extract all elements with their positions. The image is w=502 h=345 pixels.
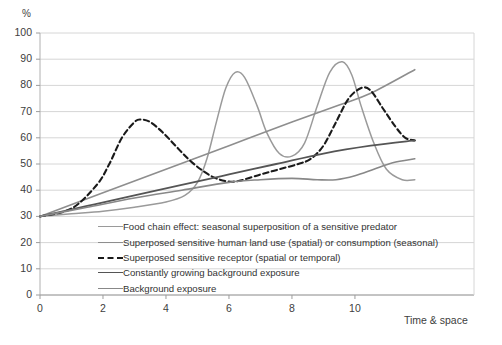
y-tick-label: 0 xyxy=(6,288,32,300)
chart-container: % Time & space 0102030405060708090100 02… xyxy=(0,0,502,345)
legend-label: Superposed sensitive receptor (spatial o… xyxy=(123,252,341,263)
y-tick-label: 40 xyxy=(6,183,32,195)
legend-item-2: Superposed sensitive receptor (spatial o… xyxy=(97,250,427,265)
legend-swatch-icon xyxy=(97,237,123,248)
legend-swatch-icon xyxy=(97,267,123,278)
legend-swatch-icon xyxy=(97,221,123,232)
x-tick-label: 0 xyxy=(27,302,53,314)
legend-swatch-icon xyxy=(97,283,123,294)
legend-item-1: Superposed sensitive human land use (spa… xyxy=(97,234,427,249)
x-tick-label: 6 xyxy=(216,302,242,314)
legend-label: Food chain effect: seasonal superpositio… xyxy=(123,221,397,232)
x-axis-title: Time & space xyxy=(404,314,468,326)
y-axis-unit-label: % xyxy=(22,8,31,19)
legend-label: Background exposure xyxy=(123,283,216,294)
y-tick-label: 50 xyxy=(6,157,32,169)
x-tick-label: 4 xyxy=(153,302,179,314)
legend-label: Superposed sensitive human land use (spa… xyxy=(123,237,438,248)
y-tick-label: 80 xyxy=(6,78,32,90)
y-tick-label: 30 xyxy=(6,209,32,221)
legend-item-0: Food chain effect: seasonal superpositio… xyxy=(97,219,427,234)
y-tick-label: 90 xyxy=(6,52,32,64)
x-tick-label: 10 xyxy=(342,302,368,314)
legend-label: Constantly growing background exposure xyxy=(123,267,300,278)
y-tick-label: 100 xyxy=(6,26,32,38)
series-line-2 xyxy=(40,87,415,216)
y-tick-label: 10 xyxy=(6,262,32,274)
series-line-4 xyxy=(40,159,415,217)
legend-swatch-icon xyxy=(97,252,123,263)
y-tick-label: 60 xyxy=(6,131,32,143)
chart-legend: Food chain effect: seasonal superpositio… xyxy=(97,219,427,296)
x-tick-label: 2 xyxy=(90,302,116,314)
series-line-1 xyxy=(40,70,415,217)
y-tick-label: 70 xyxy=(6,105,32,117)
y-tick-label: 20 xyxy=(6,236,32,248)
x-tick-label: 8 xyxy=(279,302,305,314)
legend-item-4: Background exposure xyxy=(97,281,427,296)
legend-item-3: Constantly growing background exposure xyxy=(97,265,427,280)
